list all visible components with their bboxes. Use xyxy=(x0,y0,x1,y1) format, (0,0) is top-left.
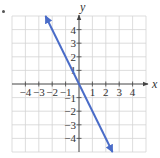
x-tick-label: −3 xyxy=(33,86,45,98)
y-tick-label: 3 xyxy=(71,37,77,49)
coordinate-plane: −4−3−2−112344321−1−2−3−4 x y xyxy=(0,0,160,158)
x-tick-label: 1 xyxy=(90,86,96,98)
y-tick-label: 2 xyxy=(71,51,77,63)
x-tick-label: −2 xyxy=(46,86,58,98)
x-tick-label: 3 xyxy=(116,86,122,98)
y-tick-label: −4 xyxy=(64,132,76,144)
y-tick-label: −3 xyxy=(64,119,76,131)
y-tick-label: −1 xyxy=(64,92,76,104)
axes xyxy=(12,15,148,152)
x-tick-label: −4 xyxy=(20,86,32,98)
y-tick-label: −2 xyxy=(64,105,76,117)
y-axis-label: y xyxy=(79,0,86,14)
y-tick-label: 4 xyxy=(71,24,77,36)
x-tick-label: 2 xyxy=(103,86,109,98)
x-axis-label: x xyxy=(151,77,158,91)
x-tick-label: 4 xyxy=(130,86,136,98)
